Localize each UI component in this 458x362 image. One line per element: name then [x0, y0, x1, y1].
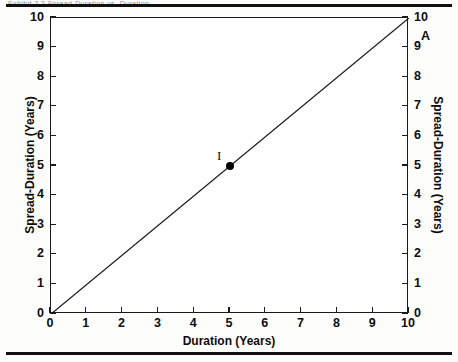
x-axis-tick-label-1: 1: [66, 317, 106, 330]
figure-page: Exhibit 2.2 Spread-Duration vs. Duration…: [0, 0, 458, 362]
x-axis-tick-5: [228, 307, 229, 313]
y-axis-tick-label-right-10: 10: [414, 11, 454, 24]
y-axis-tick-label-right-1: 1: [414, 277, 454, 290]
x-axis-tick-label-4: 4: [173, 317, 213, 330]
chart-figure: IA 001122334455667788991010012345678910 …: [0, 0, 458, 362]
y-axis-title-right: Spread-Duration (Years): [431, 75, 445, 255]
y-axis-tick-right-4: [402, 194, 408, 195]
x-axis-tick-label-7: 7: [281, 317, 321, 330]
y-axis-tick-right-1: [402, 283, 408, 284]
y-axis-tick-label-left-1: 1: [4, 277, 44, 290]
y-axis-tick-left-4: [50, 194, 56, 195]
x-axis-tick-label-6: 6: [245, 317, 285, 330]
y-axis-title-left: Spread-Duration (Years): [23, 75, 37, 255]
y-axis-tick-label-right-9: 9: [414, 40, 454, 53]
y-axis-tick-left-7: [50, 105, 56, 106]
x-axis-tick-8: [336, 307, 337, 313]
y-axis-tick-right-5: [402, 164, 408, 165]
y-axis-tick-right-3: [402, 224, 408, 225]
x-axis-tick-2: [121, 307, 122, 313]
y-axis-tick-right-8: [402, 76, 408, 77]
x-axis-tick-7: [300, 307, 301, 313]
x-axis-tick-1: [85, 307, 86, 313]
x-axis-title: Duration (Years): [0, 334, 458, 348]
y-axis-tick-right-10: [402, 16, 408, 17]
y-axis-tick-right-7: [402, 105, 408, 106]
y-axis-tick-left-9: [50, 46, 56, 47]
data-point-I: [226, 162, 234, 170]
y-axis-tick-label-left-10: 10: [4, 11, 44, 24]
y-axis-tick-right-6: [402, 135, 408, 136]
y-axis-tick-left-10: [50, 16, 56, 17]
x-axis-tick-9: [372, 307, 373, 313]
y-axis-tick-label-left-9: 9: [4, 40, 44, 53]
y-axis-tick-left-6: [50, 135, 56, 136]
y-axis-tick-right-2: [402, 253, 408, 254]
x-axis-tick-label-0: 0: [30, 317, 70, 330]
x-axis-tick-label-8: 8: [316, 317, 356, 330]
bottom-rule: [6, 352, 452, 355]
y-axis-tick-left-0: [50, 312, 56, 313]
y-axis-tick-left-8: [50, 76, 56, 77]
x-axis-tick-label-10: 10: [388, 317, 428, 330]
y-axis-tick-left-3: [50, 224, 56, 225]
y-axis-tick-right-9: [402, 46, 408, 47]
x-axis-tick-3: [157, 307, 158, 313]
x-axis-tick-4: [193, 307, 194, 313]
y-axis-tick-left-2: [50, 253, 56, 254]
x-axis-tick-label-9: 9: [352, 317, 392, 330]
x-axis-tick-label-2: 2: [102, 317, 142, 330]
plot-area: IA: [50, 17, 408, 313]
y-axis-tick-left-5: [50, 164, 56, 165]
x-axis-tick-6: [264, 307, 265, 313]
x-axis-tick-label-5: 5: [209, 317, 249, 330]
data-point-label-I: I: [217, 149, 221, 162]
y-axis-tick-left-1: [50, 283, 56, 284]
x-axis-tick-0: [49, 307, 50, 313]
x-axis-tick-10: [407, 307, 408, 313]
x-axis-tick-label-3: 3: [137, 317, 177, 330]
